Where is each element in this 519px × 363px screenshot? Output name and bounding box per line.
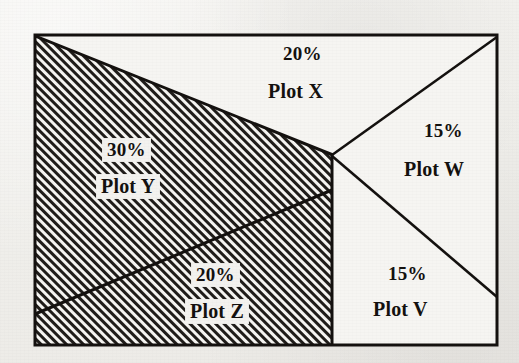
- region-v-percent: 15%: [388, 263, 427, 284]
- region-v-name: Plot V: [373, 298, 428, 320]
- region-y-name: Plot Y: [97, 175, 159, 198]
- region-y-percent: 30%: [103, 139, 150, 161]
- plot-partition-figure: [0, 0, 519, 363]
- region-x-percent: 20%: [283, 43, 322, 64]
- region-w-percent: 15%: [424, 120, 463, 141]
- partition-svg: [0, 0, 519, 363]
- region-z-name: Plot Z: [186, 300, 248, 323]
- region-x-name: Plot X: [268, 80, 323, 102]
- region-z-percent: 20%: [192, 264, 239, 286]
- region-w-name: Plot W: [404, 158, 464, 180]
